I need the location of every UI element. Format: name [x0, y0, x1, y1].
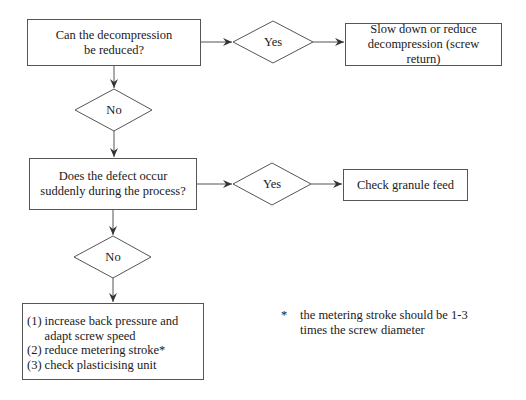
yes-label-1: Yes [243, 35, 303, 49]
final-actions-box: (1) increase back pressure and adapt scr… [22, 303, 204, 380]
no-label-2: No [83, 250, 143, 264]
action-slow-down-box: Slow down or reduce decompression (screw… [345, 23, 502, 66]
no-label-1: No [84, 103, 144, 117]
footnote-marker: * [281, 308, 287, 323]
final-action-item: (3) check plasticising unit [27, 358, 197, 373]
action-slow-down-text: Slow down or reduce decompression (screw… [352, 22, 495, 67]
question-defect-sudden-text: Does the defect occur suddenly during th… [36, 169, 190, 199]
footnote-text: the metering stroke should be 1-3 times … [300, 308, 490, 338]
final-action-item: (1) increase back pressure and adapt scr… [27, 314, 197, 343]
question-decompression-box: Can the decompression be reduced? [27, 19, 201, 66]
question-defect-sudden-box: Does the defect occur suddenly during th… [29, 158, 197, 210]
action-check-granule-text: Check granule feed [357, 178, 454, 193]
final-action-item: (2) reduce metering stroke* [27, 343, 197, 358]
question-decompression-text: Can the decompression be reduced? [49, 28, 179, 58]
action-check-granule-box: Check granule feed [343, 169, 468, 201]
yes-label-2: Yes [242, 177, 302, 191]
